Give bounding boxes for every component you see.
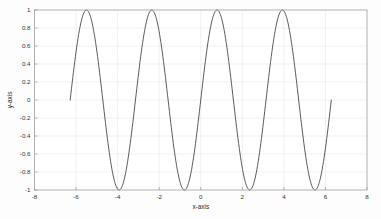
x-tick-label: 4 (282, 193, 286, 200)
y-tick-label: 1 (27, 6, 31, 13)
y-tick-label: 0.2 (22, 78, 31, 85)
y-tick-label: -0.6 (20, 150, 31, 157)
x-axis-title: x-axis (192, 203, 209, 210)
x-tick-label: -2 (156, 193, 162, 200)
figure-canvas: -8-6-4-202468-1-0.8-0.6-0.4-0.200.20.40.… (0, 0, 381, 219)
y-tick-label: -0.8 (20, 168, 31, 175)
x-tick-label: -8 (32, 193, 38, 200)
x-tick-label: -6 (73, 193, 79, 200)
y-tick-label: -0.4 (20, 132, 31, 139)
y-axis-title: y-axis (6, 92, 14, 109)
y-tick-label: -1 (25, 186, 31, 193)
y-tick-label: 0.4 (22, 60, 31, 67)
x-tick-label: 8 (365, 193, 369, 200)
x-tick-label: 6 (324, 193, 328, 200)
x-tick-label: -4 (115, 193, 121, 200)
plot-area: -8-6-4-202468-1-0.8-0.6-0.4-0.200.20.40.… (0, 0, 381, 219)
y-tick-label: 0.6 (22, 42, 31, 49)
y-tick-label: 0.8 (22, 24, 31, 31)
x-tick-label: 0 (199, 193, 203, 200)
y-tick-label: 0 (27, 96, 31, 103)
x-tick-label: 2 (241, 193, 245, 200)
y-tick-label: -0.2 (20, 114, 31, 121)
